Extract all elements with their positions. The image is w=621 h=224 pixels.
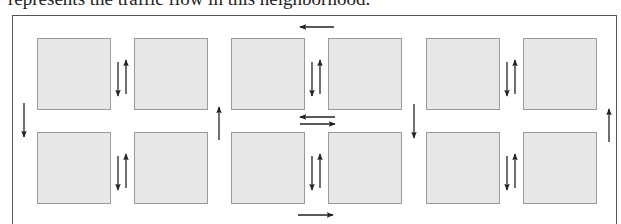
block-r1-c3	[231, 38, 305, 110]
block-r2-c4	[328, 132, 402, 204]
block-r2-c2	[134, 132, 208, 204]
block-r1-c2	[134, 38, 208, 110]
block-r2-c1	[37, 132, 111, 204]
block-r1-c4	[328, 38, 402, 110]
block-r1-c5	[426, 38, 500, 110]
block-r2-c3	[231, 132, 305, 204]
block-r2-c5	[426, 132, 500, 204]
block-r1-c6	[523, 38, 597, 110]
block-r2-c6	[523, 132, 597, 204]
diagram-caption: represents the traffic flow in this neig…	[8, 0, 370, 9]
block-r1-c1	[37, 38, 111, 110]
